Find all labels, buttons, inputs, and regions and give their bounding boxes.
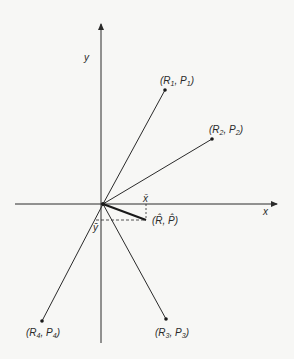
point-p1 bbox=[163, 88, 167, 92]
label-p1: (R1, P1) bbox=[160, 75, 194, 87]
x-axis-label: x bbox=[262, 206, 269, 217]
mean-vector bbox=[103, 204, 146, 220]
point-p2 bbox=[210, 137, 214, 141]
vector-p2 bbox=[103, 139, 212, 204]
label-mean-point: (R̂, P̂) bbox=[152, 213, 178, 226]
point-p3 bbox=[164, 317, 168, 321]
point-p4 bbox=[40, 319, 44, 323]
y-axis-label: y bbox=[83, 52, 90, 63]
label-y-bar: ȳ bbox=[92, 222, 99, 233]
vector-diagram: y x (R1, P1) (R2, P2) (R3, P3) (R4, P4) … bbox=[0, 0, 294, 359]
label-p2: (R2, P2) bbox=[209, 124, 243, 136]
label-x-bar: x̄ bbox=[142, 193, 149, 204]
origin-dot bbox=[101, 202, 105, 206]
label-p3: (R3, P3) bbox=[155, 327, 189, 339]
vector-p1 bbox=[103, 90, 165, 204]
label-p4: (R4, P4) bbox=[26, 327, 60, 339]
